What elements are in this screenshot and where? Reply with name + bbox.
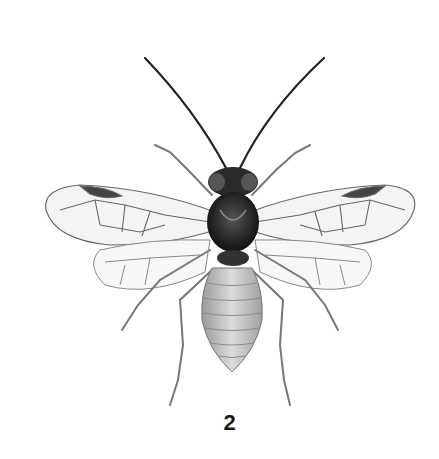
abdomen (202, 268, 263, 372)
forewing-right (250, 185, 415, 245)
thorax (207, 192, 259, 266)
forewing-left (46, 185, 215, 245)
hindwing-right (255, 240, 371, 290)
sawfly-illustration (0, 0, 439, 459)
hindwing-left (94, 240, 210, 290)
figure-number-label: 2 (0, 410, 439, 436)
illustration-plate: 2 (0, 0, 439, 459)
